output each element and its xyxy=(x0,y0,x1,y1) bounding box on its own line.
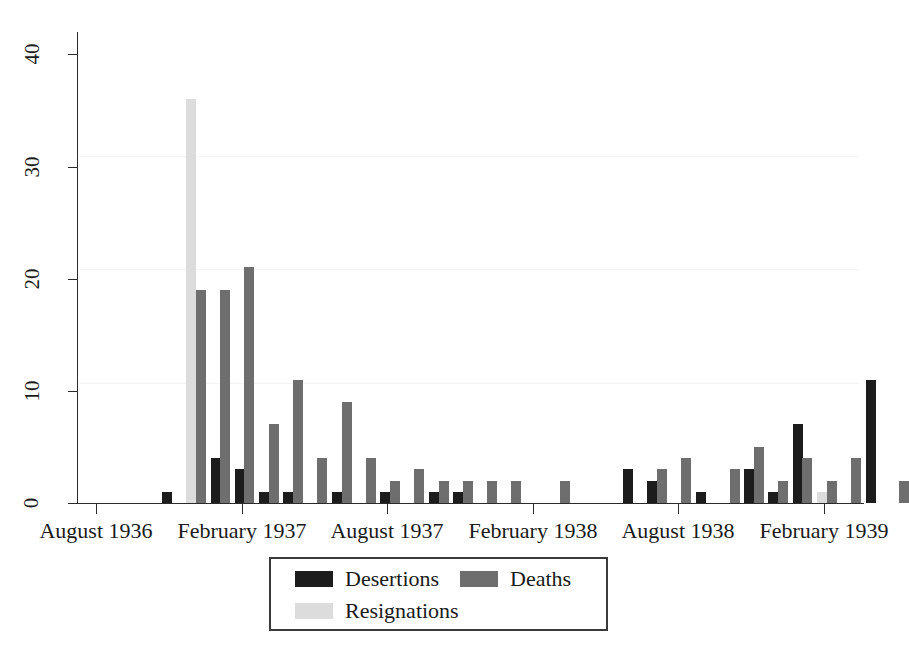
x-axis-tick xyxy=(533,504,534,514)
bar-deaths xyxy=(778,481,788,503)
bar-resignations xyxy=(186,99,196,503)
x-axis-tick-label: August 1938 xyxy=(598,518,758,544)
legend-item-deaths: Deaths xyxy=(460,567,571,591)
legend-item-desertions: Desertions xyxy=(295,567,439,591)
bar-desertions xyxy=(453,492,463,503)
bar-deaths xyxy=(220,290,230,503)
x-axis-tick xyxy=(678,504,679,514)
x-axis-tick xyxy=(96,504,97,514)
bar-desertions xyxy=(866,380,876,503)
bar-deaths xyxy=(293,380,303,503)
bar-deaths xyxy=(802,458,812,503)
x-axis-tick-label: August 1937 xyxy=(307,518,467,544)
bar-deaths xyxy=(244,267,254,503)
y-axis-tick xyxy=(68,391,77,392)
y-axis-tick xyxy=(68,54,77,55)
bar-deaths xyxy=(366,458,376,503)
bar-deaths xyxy=(657,469,667,503)
bars-layer xyxy=(78,32,864,503)
bar-deaths xyxy=(899,481,909,503)
x-axis-tick-label: February 1937 xyxy=(162,518,322,544)
bar-desertions xyxy=(623,469,633,503)
bar-desertions xyxy=(259,492,269,503)
bar-deaths xyxy=(827,481,837,503)
bar-resignations xyxy=(817,492,827,503)
y-axis-tick-label: 40 xyxy=(0,43,62,65)
y-axis-tick-label: 10 xyxy=(0,380,62,402)
bar-deaths xyxy=(269,424,279,503)
bar-desertions xyxy=(162,492,172,503)
bar-deaths xyxy=(730,469,740,503)
bar-deaths xyxy=(851,458,861,503)
bar-deaths xyxy=(342,402,352,503)
y-axis-tick xyxy=(68,279,77,280)
bar-desertions xyxy=(332,492,342,503)
y-axis-tick-label: 0 xyxy=(0,492,62,514)
bar-deaths xyxy=(414,469,424,503)
x-axis-tick-label: February 1938 xyxy=(453,518,613,544)
x-axis-tick-label: August 1936 xyxy=(16,518,176,544)
y-axis-tick xyxy=(68,503,77,504)
legend-swatch-deaths xyxy=(460,571,498,587)
bar-desertions xyxy=(429,492,439,503)
y-axis-tick-label: 20 xyxy=(0,268,62,290)
bar-desertions xyxy=(768,492,778,503)
bar-deaths xyxy=(317,458,327,503)
x-axis-spine xyxy=(77,503,864,504)
bar-desertions xyxy=(647,481,657,503)
bar-deaths xyxy=(511,481,521,503)
bar-deaths xyxy=(681,458,691,503)
bar-desertions xyxy=(283,492,293,503)
y-axis-tick xyxy=(68,167,77,168)
bar-desertions xyxy=(380,492,390,503)
bar-deaths xyxy=(487,481,497,503)
legend: Desertions Deaths Resignations xyxy=(269,557,608,631)
x-axis-tick xyxy=(824,504,825,514)
bar-deaths xyxy=(754,447,764,503)
y-axis-tick-label: 30 xyxy=(0,156,62,178)
legend-label-resignations: Resignations xyxy=(345,599,459,623)
legend-label-deaths: Deaths xyxy=(510,567,571,591)
legend-swatch-desertions xyxy=(295,571,333,587)
legend-swatch-resignations xyxy=(295,603,333,619)
bar-deaths xyxy=(196,290,206,503)
bar-desertions xyxy=(744,469,754,503)
bar-deaths xyxy=(390,481,400,503)
legend-label-desertions: Desertions xyxy=(345,567,439,591)
x-axis-tick xyxy=(387,504,388,514)
legend-item-resignations: Resignations xyxy=(295,599,459,623)
x-axis-tick xyxy=(242,504,243,514)
bar-deaths xyxy=(560,481,570,503)
bar-deaths xyxy=(463,481,473,503)
x-axis-tick-label: February 1939 xyxy=(744,518,904,544)
bar-deaths xyxy=(439,481,449,503)
bar-desertions xyxy=(696,492,706,503)
